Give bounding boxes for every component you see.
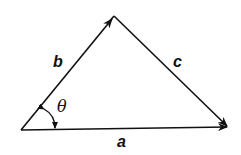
vector-triangle-diagram: b c θ a xyxy=(0,0,241,155)
label-b: b xyxy=(53,54,63,70)
vector-a xyxy=(21,127,227,130)
triangle-svg xyxy=(0,0,241,155)
label-c: c xyxy=(173,54,182,70)
label-theta: θ xyxy=(57,99,67,115)
angle-arc xyxy=(44,109,55,128)
label-a: a xyxy=(117,134,126,150)
vector-c xyxy=(114,16,227,126)
